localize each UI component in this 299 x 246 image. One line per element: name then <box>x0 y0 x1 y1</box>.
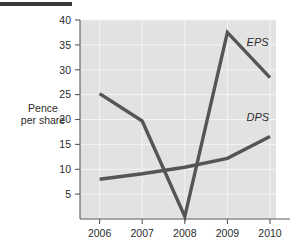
chart-page: 5 10 15 20 25 30 35 40 2006 2007 2008 20… <box>0 0 299 246</box>
y-tick-label-30: 30 <box>59 64 71 76</box>
y-tick-label-5: 5 <box>65 188 71 200</box>
y-axis-caption-line-1: Pence <box>12 103 74 115</box>
x-tick-label-2006: 2006 <box>88 227 112 239</box>
y-tick-label-15: 15 <box>59 138 71 150</box>
y-tick-marks <box>75 20 80 194</box>
eps-series-label: EPS <box>247 36 270 48</box>
y-tick-label-35: 35 <box>59 39 71 51</box>
x-tick-label-2008: 2008 <box>173 227 197 239</box>
line-chart: 5 10 15 20 25 30 35 40 2006 2007 2008 20… <box>0 0 299 246</box>
x-tick-label-2010: 2010 <box>258 227 282 239</box>
y-tick-label-40: 40 <box>59 14 71 26</box>
y-tick-label-25: 25 <box>59 88 71 100</box>
x-tick-labels: 2006 2007 2008 2009 2010 <box>88 227 282 239</box>
y-axis-caption: Pence per share <box>12 103 74 126</box>
dps-series-label: DPS <box>247 111 270 123</box>
y-tick-label-10: 10 <box>59 163 71 175</box>
y-axis-caption-line-2: per share <box>12 115 74 127</box>
x-tick-label-2009: 2009 <box>216 227 240 239</box>
x-tick-label-2007: 2007 <box>131 227 155 239</box>
